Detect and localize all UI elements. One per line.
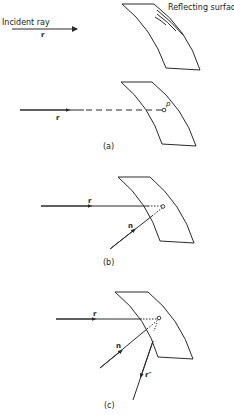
- r-double-prime-label: r″: [145, 371, 152, 379]
- reflecting-surface-shape: [121, 82, 196, 146]
- r-label: r: [41, 31, 45, 39]
- reflecting-surface-label: Reflecting surface: [168, 3, 234, 12]
- surface-shading-line: [157, 10, 183, 35]
- normal-extended-dotted: [152, 208, 162, 216]
- normal-extended-dotted: [147, 320, 158, 329]
- normal-direction-arrow: [100, 351, 121, 368]
- surface-shading-line: [157, 14, 176, 31]
- caption-c: (c): [104, 401, 115, 410]
- panel-top: Incident ray r Reflecting surface: [2, 3, 234, 70]
- construction-dotted: [154, 323, 157, 331]
- r-label: r: [88, 197, 92, 205]
- reflecting-surface-shape: [115, 292, 193, 359]
- caption-a: (a): [103, 142, 114, 151]
- normal-direction-arrow: [110, 230, 134, 249]
- n-label: n: [116, 342, 121, 350]
- point-p: [162, 108, 166, 112]
- panel-c: r n r″ (c): [56, 292, 193, 410]
- r-label: r: [56, 114, 60, 122]
- surface-shading-line: [155, 17, 166, 25]
- p-label: p: [165, 100, 171, 108]
- r-label: r: [93, 310, 97, 318]
- incident-ray-label: Incident ray: [2, 18, 50, 27]
- point-p: [157, 316, 161, 320]
- panel-b: r n (b): [41, 177, 194, 267]
- panel-a: p r (a): [20, 82, 196, 151]
- reflection-diagram: Incident ray r Reflecting surface p r (a…: [0, 0, 234, 415]
- n-label: n: [128, 222, 133, 230]
- caption-b: (b): [103, 258, 114, 267]
